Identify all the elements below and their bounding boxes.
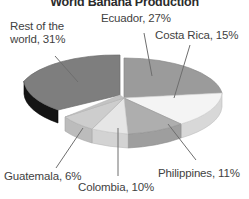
label-costa-rica: Costa Rica, 15%	[155, 29, 238, 42]
slice-ecuador	[124, 58, 222, 98]
label-colombia: Colombia, 10%	[78, 181, 154, 194]
label-rest-of-world: Rest of the world, 31%	[10, 20, 88, 46]
label-guatemala: Guatemala, 6%	[4, 170, 81, 183]
label-rest-of-world-line2: world, 31%	[10, 33, 65, 45]
label-rest-of-world-line1: Rest of the	[10, 20, 64, 32]
label-philippines: Philippines, 11%	[158, 167, 240, 180]
label-ecuador: Ecuador, 27%	[101, 12, 171, 25]
pie-chart-figure: World Banana Production	[0, 0, 249, 199]
